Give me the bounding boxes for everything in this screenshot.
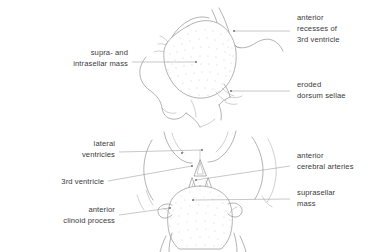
- label-anterior-cerebral-arteries-line2: cerebral arteries: [297, 162, 354, 171]
- label-3rd-ventricle-line1: 3rd ventricle: [61, 177, 104, 186]
- leader-line-3rd-ventricle: [108, 166, 192, 181]
- anatomical-diagram: supra- and intrasellar mass anterior rec…: [0, 0, 385, 252]
- axial-anatomy-drawing: [137, 131, 276, 252]
- leader-dot-eroded-dorsum-sellae: [230, 90, 232, 92]
- leader-line-anterior-clinoid-process: [119, 208, 170, 215]
- label-anterior-recesses-line3: 3rd ventricle: [297, 35, 340, 44]
- label-suprasellar-mass-line2: mass: [297, 199, 316, 208]
- label-lateral-ventricles-line2: ventricles: [82, 150, 115, 159]
- label-anterior-clinoid-process-line1: anterior: [88, 205, 115, 214]
- leader-dot-anterior-recesses: [233, 30, 235, 32]
- label-anterior-cerebral-arteries-line1: anterior: [297, 151, 324, 160]
- label-supra-intrasellar-mass-line2: intrasellar mass: [73, 59, 128, 68]
- leader-dot-supra-intrasellar-mass: [195, 61, 197, 63]
- label-eroded-dorsum-sellae-line1: eroded: [297, 80, 321, 89]
- label-anterior-clinoid-process-line2: clinoid process: [63, 216, 115, 225]
- label-supra-intrasellar-mass-line1: supra- and: [91, 48, 128, 57]
- label-suprasellar-mass-line1: suprasellar: [297, 188, 336, 197]
- leader-dot-3rd-ventricle: [191, 165, 193, 167]
- leader-dot-lateral-ventricles: [201, 149, 203, 151]
- label-anterior-recesses-3rd-ventricle: anterior recesses of 3rd ventricle: [233, 13, 340, 44]
- leader-dot-suprasellar-mass: [192, 199, 194, 201]
- leader-dot-anterior-clinoid-process: [169, 207, 171, 209]
- sagittal-anatomy-drawing: [140, 8, 283, 127]
- label-eroded-dorsum-sellae-line2: dorsum sellae: [297, 91, 346, 100]
- label-eroded-dorsum-sellae: eroded dorsum sellae: [230, 80, 346, 100]
- label-lateral-ventricles-line1: lateral: [94, 139, 116, 148]
- label-lateral-ventricles: lateral ventricles: [82, 139, 203, 159]
- label-3rd-ventricle: 3rd ventricle: [61, 165, 193, 186]
- label-anterior-recesses-line1: anterior: [297, 13, 324, 22]
- label-anterior-recesses-line2: recesses of: [297, 24, 338, 33]
- leader-dot-lateral-ventricles-left: [181, 152, 183, 154]
- leader-dot-anterior-cerebral-arteries: [195, 179, 197, 181]
- label-anterior-clinoid-process: anterior clinoid process: [63, 205, 171, 225]
- leader-line-lateral-ventricles: [119, 150, 202, 152]
